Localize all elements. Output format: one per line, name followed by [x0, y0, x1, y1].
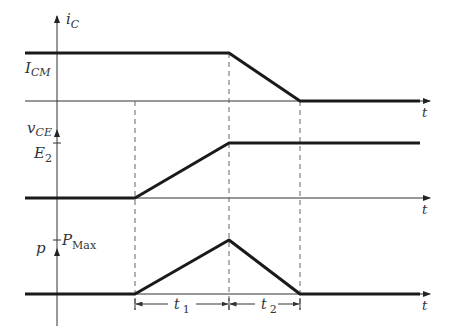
- vce-axis-label: vCE: [27, 119, 52, 139]
- p-axis-arrow-icon: [54, 248, 60, 256]
- vertical-axis: [53, 16, 61, 326]
- vce-time-label: t: [422, 202, 428, 217]
- ic-axis-label: iC: [66, 10, 80, 31]
- p-time-label: t: [422, 298, 428, 313]
- switching-waveform-diagram: iC ICM t vCE E2 t p PMax t t1 t2: [0, 0, 453, 336]
- pmax-level-label: PMax: [61, 231, 97, 252]
- p-axis-label: p: [36, 239, 46, 257]
- vce-waveform: [25, 143, 420, 198]
- t1-label: t1: [174, 296, 190, 316]
- dashed-guides: [135, 53, 300, 310]
- vce-axis-arrow-icon: [54, 129, 60, 137]
- ic-time-label: t: [422, 105, 428, 120]
- ic-waveform: [25, 53, 420, 101]
- icm-level-label: ICM: [24, 59, 51, 79]
- e2-level-label: E2: [33, 144, 52, 165]
- t2-label: t2: [261, 296, 277, 316]
